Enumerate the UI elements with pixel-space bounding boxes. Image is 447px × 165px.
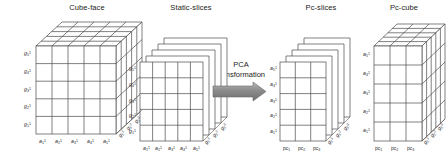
cube-face-ylabel-2: g31 <box>24 86 31 93</box>
cube-face-ylabel-3: g21 <box>24 103 31 110</box>
static-slices-ylabel-1: g41 <box>129 81 136 88</box>
pc-slices-ylabel-3: a21 <box>270 112 277 119</box>
pc-slices-xlabel-1: pc2 <box>298 145 305 152</box>
pc-cube-ylabel-4: a11 <box>363 127 370 134</box>
pc-cube-graphic <box>374 24 445 141</box>
pc-slices-ylabel-2: a31 <box>270 97 277 104</box>
pc-slices-ylabel-1: a41 <box>270 81 277 88</box>
pc-cube-xlabel-2: pc3 <box>407 145 414 152</box>
pc-slices-xlabel-2: pc3 <box>313 145 320 152</box>
diagram-canvas <box>0 0 447 165</box>
static-slices-xlabel-0: a11 <box>143 145 150 152</box>
pca-transformation-diagram: Cube-face Static-slices Pc-slices Pc-cub… <box>0 0 447 165</box>
cube-face-xlabel-4: a51 <box>103 138 110 145</box>
pc-cube-ylabel-3: a21 <box>363 108 370 115</box>
cube-face-xlabel-2: a31 <box>71 138 78 145</box>
pc-slices-ylabel-0: a51 <box>270 65 277 72</box>
static-slices-xlabel-4: a51 <box>193 145 200 152</box>
static-slices-xlabel-2: a31 <box>168 145 175 152</box>
cube-face-xlabel-1: a21 <box>55 138 62 145</box>
static-slices-ylabel-3: g21 <box>129 112 136 119</box>
cube-face-ylabel-0: g51 <box>24 50 31 57</box>
static-slices-ylabel-2: g31 <box>129 97 136 104</box>
cube-face-ylabel-4: g11 <box>24 121 31 128</box>
static-slices-ylabel-4: g11 <box>129 128 136 135</box>
pc-slices-xlabel-0: pc1 <box>283 145 290 152</box>
pc-slices-ylabel-4: a11 <box>270 128 277 135</box>
cube-face-xlabel-3: a41 <box>87 138 94 145</box>
pc-cube-ylabel-1: a41 <box>363 70 370 77</box>
cube-face-xlabel-0: a11 <box>39 138 46 145</box>
static-slices-xlabel-3: a41 <box>180 145 187 152</box>
cube-face-ylabel-1: g41 <box>24 68 31 75</box>
pc-cube-ylabel-2: a31 <box>363 89 370 96</box>
cube-face-graphic <box>36 22 142 134</box>
pc-slices-graphic <box>280 38 350 141</box>
pc-cube-xlabel-1: pc2 <box>391 145 398 152</box>
pc-cube-ylabel-0: a51 <box>363 51 370 58</box>
pc-cube-xlabel-0: pc1 <box>375 145 382 152</box>
static-slices-xlabel-1: a21 <box>155 145 162 152</box>
static-slices-ylabel-0: g51 <box>129 65 136 72</box>
